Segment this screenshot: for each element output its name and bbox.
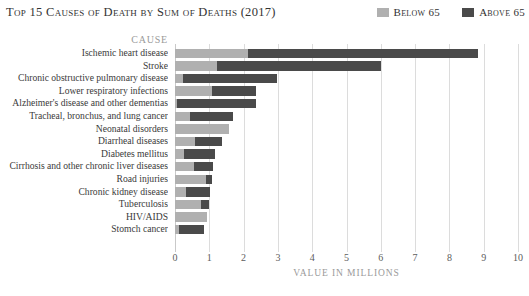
bar-track bbox=[175, 175, 518, 184]
bar-segment-below-65[interactable] bbox=[175, 49, 248, 58]
bar-row[interactable]: Stomch cancer bbox=[0, 223, 529, 236]
bar-track bbox=[175, 49, 518, 58]
category-label: HIV/AIDS bbox=[0, 211, 168, 224]
bar-segment-below-65[interactable] bbox=[175, 86, 212, 95]
category-label: Stomch cancer bbox=[0, 223, 168, 236]
bar-segment-above-65[interactable] bbox=[201, 200, 210, 209]
bar-row[interactable]: HIV/AIDS bbox=[0, 211, 529, 224]
bar-row[interactable]: Tuberculosis bbox=[0, 198, 529, 211]
bar-segment-above-65[interactable] bbox=[177, 99, 256, 108]
bar-track bbox=[175, 112, 518, 121]
category-label: Lower respiratory infections bbox=[0, 85, 168, 98]
category-label: Cirrhosis and other chronic liver diseas… bbox=[0, 160, 168, 173]
bar-track bbox=[175, 61, 518, 70]
bar-segment-below-65[interactable] bbox=[175, 137, 195, 146]
bar-segment-above-65[interactable] bbox=[190, 112, 233, 121]
legend-item-above-65[interactable]: Above 65 bbox=[462, 6, 525, 18]
category-label: Road injuries bbox=[0, 173, 168, 186]
bar-track bbox=[175, 187, 518, 196]
bar-track bbox=[175, 137, 518, 146]
y-axis-title: CAUSE bbox=[0, 34, 168, 45]
bar-track bbox=[175, 162, 518, 171]
bar-segment-above-65[interactable] bbox=[183, 74, 277, 83]
bar-segment-above-65[interactable] bbox=[217, 61, 381, 70]
bar-row[interactable]: Ischemic heart disease bbox=[0, 47, 529, 60]
category-label: Ischemic heart disease bbox=[0, 47, 168, 60]
bar-segment-below-65[interactable] bbox=[175, 175, 206, 184]
bar-segment-above-65[interactable] bbox=[186, 187, 210, 196]
category-label: Stroke bbox=[0, 60, 168, 73]
plot-area: CAUSE Ischemic heart diseaseStrokeChroni… bbox=[0, 30, 529, 296]
bar-row[interactable]: Alzheimer's disease and other dementias bbox=[0, 97, 529, 110]
bar-row[interactable]: Chronic kidney disease bbox=[0, 186, 529, 199]
chart-legend: Below 65 Above 65 bbox=[377, 6, 525, 18]
bar-segment-above-65[interactable] bbox=[194, 162, 213, 171]
bar-track bbox=[175, 200, 518, 209]
bar-segment-above-65[interactable] bbox=[206, 175, 212, 184]
bar-segment-below-65[interactable] bbox=[175, 74, 183, 83]
category-label: Diabetes mellitus bbox=[0, 148, 168, 161]
bar-track bbox=[175, 74, 518, 83]
bar-track bbox=[175, 212, 518, 221]
category-label: Chronic kidney disease bbox=[0, 186, 168, 199]
x-tick-label: 10 bbox=[498, 252, 529, 263]
category-label: Alzheimer's disease and other dementias bbox=[0, 97, 168, 110]
legend-swatch-below-65 bbox=[377, 8, 389, 17]
bar-segment-below-65[interactable] bbox=[175, 200, 201, 209]
bar-track bbox=[175, 124, 518, 133]
bar-segment-below-65[interactable] bbox=[175, 162, 194, 171]
bar-row[interactable]: Diabetes mellitus bbox=[0, 148, 529, 161]
bar-segment-below-65[interactable] bbox=[175, 61, 217, 70]
legend-label-below-65: Below 65 bbox=[394, 6, 441, 18]
category-label: Chronic obstructive pulmonary disease bbox=[0, 72, 168, 85]
bar-segment-above-65[interactable] bbox=[248, 49, 478, 58]
legend-item-below-65[interactable]: Below 65 bbox=[377, 6, 441, 18]
bar-segment-below-65[interactable] bbox=[175, 112, 190, 121]
x-axis-title: VALUE IN MILLIONS bbox=[175, 268, 518, 278]
bar-row[interactable]: Diarrheal diseases bbox=[0, 135, 529, 148]
bar-row[interactable]: Neonatal disorders bbox=[0, 123, 529, 136]
bar-segment-above-65[interactable] bbox=[195, 137, 222, 146]
chart-title: Top 15 Causes of Death by Sum of Deaths … bbox=[6, 5, 276, 20]
bar-track bbox=[175, 149, 518, 158]
bar-track bbox=[175, 225, 518, 234]
category-label: Tracheal, bronchus, and lung cancer bbox=[0, 110, 168, 123]
bar-segment-below-65[interactable] bbox=[175, 149, 184, 158]
bar-segment-below-65[interactable] bbox=[175, 187, 186, 196]
bar-segment-below-65[interactable] bbox=[175, 212, 207, 221]
bar-row[interactable]: Lower respiratory infections bbox=[0, 85, 529, 98]
bar-row[interactable]: Cirrhosis and other chronic liver diseas… bbox=[0, 160, 529, 173]
chart-header: Top 15 Causes of Death by Sum of Deaths … bbox=[0, 0, 529, 26]
bar-rows: Ischemic heart diseaseStrokeChronic obst… bbox=[0, 47, 529, 236]
bar-track bbox=[175, 99, 518, 108]
bar-row[interactable]: Road injuries bbox=[0, 173, 529, 186]
bar-row[interactable]: Stroke bbox=[0, 60, 529, 73]
bar-segment-below-65[interactable] bbox=[175, 124, 229, 133]
category-label: Tuberculosis bbox=[0, 198, 168, 211]
x-axis-ticks: 012345678910 bbox=[0, 252, 529, 268]
bar-row[interactable]: Chronic obstructive pulmonary disease bbox=[0, 72, 529, 85]
bar-segment-above-65[interactable] bbox=[179, 225, 204, 234]
bar-segment-above-65[interactable] bbox=[212, 86, 256, 95]
legend-swatch-above-65 bbox=[462, 8, 474, 17]
bar-row[interactable]: Tracheal, bronchus, and lung cancer bbox=[0, 110, 529, 123]
bar-segment-above-65[interactable] bbox=[184, 149, 215, 158]
bar-track bbox=[175, 86, 518, 95]
legend-label-above-65: Above 65 bbox=[479, 6, 525, 18]
category-label: Diarrheal diseases bbox=[0, 135, 168, 148]
category-label: Neonatal disorders bbox=[0, 123, 168, 136]
